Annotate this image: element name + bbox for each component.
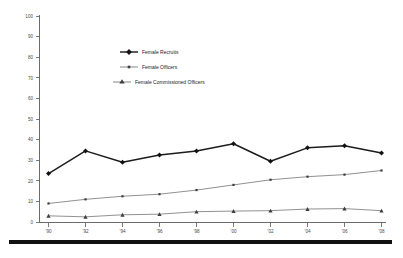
series-female-officers (47, 169, 382, 204)
data-point-marker (342, 143, 347, 148)
x-axis-tick-labels: '90 '92 '94 '96 '98 '00 '02 '04 '06 '08 (46, 229, 385, 234)
y-tick-label: 30 (28, 158, 34, 163)
series-line (49, 144, 382, 174)
series-layer (46, 141, 384, 219)
legend-marker-diamond (126, 49, 132, 55)
y-tick-label: 10 (28, 199, 34, 204)
x-tick-label: '92 (83, 229, 89, 234)
y-tick-label: 60 (28, 96, 34, 101)
y-tick-label: 20 (28, 179, 34, 184)
data-point-marker (157, 153, 162, 158)
footer-divider-rule (9, 240, 392, 244)
data-point-marker (232, 184, 234, 186)
y-tick-label: 100 (25, 14, 33, 19)
x-tick-label: '02 (268, 229, 274, 234)
data-point-marker (47, 202, 49, 204)
series-female-recruits (46, 141, 384, 176)
y-tick-label: 0 (30, 220, 33, 225)
legend-marker-triangle (119, 79, 124, 83)
y-tick-label: 50 (28, 117, 34, 122)
data-point-marker (343, 174, 345, 176)
x-tick-label: '08 (379, 229, 385, 234)
data-point-marker (306, 176, 308, 178)
x-tick-label: '94 (120, 229, 126, 234)
y-tick-label: 80 (28, 55, 34, 60)
data-point-marker (231, 141, 236, 146)
data-point-marker (380, 169, 382, 171)
legend-item-female-commissioned-officers[interactable]: Female Commissioned Officers (113, 79, 205, 85)
data-point-marker (158, 193, 160, 195)
legend-item-female-recruits[interactable]: Female Recruits (120, 49, 179, 55)
line-chart: 100 90 80 70 60 50 40 30 20 10 0 (0, 0, 403, 258)
chart-figure: 100 90 80 70 60 50 40 30 20 10 0 (0, 0, 403, 258)
data-point-marker (379, 150, 384, 155)
data-point-marker (84, 198, 86, 200)
data-point-marker (120, 160, 125, 165)
legend-label-recruits: Female Recruits (142, 49, 179, 55)
data-point-marker (305, 145, 310, 150)
y-tick-label: 90 (28, 34, 34, 39)
x-tick-label: '98 (194, 229, 200, 234)
x-axis-ticks (49, 223, 382, 227)
x-tick-label: '90 (46, 229, 52, 234)
data-point-marker (269, 179, 271, 181)
series-female-commissioned-officers (46, 207, 383, 219)
y-tick-label: 40 (28, 137, 34, 142)
legend-label-commissioned: Female Commissioned Officers (135, 79, 205, 85)
data-point-marker (195, 189, 197, 191)
chart-legend: Female Recruits Female Officers Female C… (113, 49, 205, 85)
x-tick-label: '96 (157, 229, 163, 234)
y-axis-tick-labels: 100 90 80 70 60 50 40 30 20 10 0 (25, 14, 33, 225)
x-tick-label: '00 (231, 229, 237, 234)
legend-item-female-officers[interactable]: Female Officers (120, 64, 178, 70)
data-point-marker (194, 148, 199, 153)
data-point-marker (268, 159, 273, 164)
y-tick-label: 70 (28, 76, 34, 81)
series-line (49, 171, 382, 204)
legend-label-officers: Female Officers (142, 64, 178, 70)
series-line (49, 209, 382, 217)
legend-marker-dot (128, 66, 131, 69)
x-tick-label: '06 (342, 229, 348, 234)
x-tick-label: '04 (305, 229, 311, 234)
data-point-marker (121, 195, 123, 197)
